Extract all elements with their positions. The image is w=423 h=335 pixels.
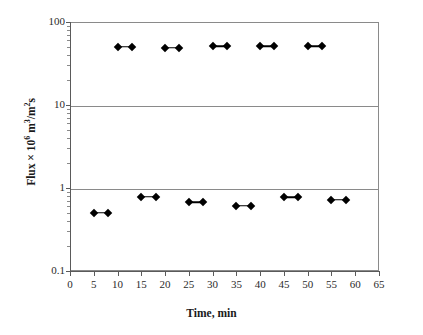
x-tick-label-60: 60	[350, 279, 361, 290]
y-minor-tick	[67, 148, 70, 149]
x-tick-60	[355, 271, 356, 276]
y-minor-tick	[67, 35, 70, 36]
x-tick-5	[94, 271, 95, 276]
y-minor-tick	[67, 163, 70, 164]
y-axis-line	[70, 22, 71, 271]
y-minor-tick	[67, 201, 70, 202]
x-tick-30	[213, 271, 214, 276]
y-minor-tick	[67, 109, 70, 110]
y-minor-tick	[67, 231, 70, 232]
x-tick-label-5: 5	[91, 279, 97, 290]
y-minor-tick	[67, 65, 70, 66]
y-tick-label-100: 100	[49, 16, 66, 27]
y-tick-100	[66, 22, 71, 23]
y-minor-tick	[67, 196, 70, 197]
plot-area	[70, 22, 379, 271]
x-tick-40	[260, 271, 261, 276]
y-minor-tick	[67, 123, 70, 124]
x-tick-label-35: 35	[231, 279, 242, 290]
y-tick-label-1: 1	[60, 182, 66, 193]
y-minor-tick	[67, 113, 70, 114]
y-minor-tick	[67, 192, 70, 193]
x-tick-label-30: 30	[207, 279, 218, 290]
y-minor-tick	[67, 213, 70, 214]
y-tick-label-10: 10	[54, 99, 65, 110]
x-tick-45	[284, 271, 285, 276]
gridline-1	[71, 189, 378, 190]
y-minor-tick	[67, 26, 70, 27]
y-minor-tick	[67, 130, 70, 131]
x-tick-label-15: 15	[136, 279, 147, 290]
y-minor-tick	[67, 138, 70, 139]
y-minor-tick	[67, 30, 70, 31]
x-tick-25	[189, 271, 190, 276]
x-tick-65	[379, 271, 380, 276]
y-minor-tick	[67, 221, 70, 222]
y-minor-tick	[67, 55, 70, 56]
y-tick-label-0.1: 0.1	[51, 265, 65, 276]
x-tick-55	[331, 271, 332, 276]
x-tick-50	[308, 271, 309, 276]
y-minor-tick	[67, 118, 70, 119]
flux-vs-time-chart: 0.1110100 05101520253035404550556065 Flu…	[0, 0, 423, 335]
x-tick-label-50: 50	[302, 279, 313, 290]
y-minor-tick	[67, 40, 70, 41]
y-axis-title: Flux × 106 m3/m2s	[23, 17, 37, 267]
x-axis-title: Time, min	[0, 307, 423, 319]
x-tick-35	[236, 271, 237, 276]
x-tick-10	[118, 271, 119, 276]
x-tick-label-40: 40	[255, 279, 266, 290]
x-axis-line	[70, 271, 379, 272]
x-tick-15	[141, 271, 142, 276]
x-tick-label-55: 55	[326, 279, 337, 290]
x-tick-label-10: 10	[112, 279, 123, 290]
x-tick-0	[70, 271, 71, 276]
y-tick-1	[66, 188, 71, 189]
y-tick-10	[66, 105, 71, 106]
x-tick-label-0: 0	[67, 279, 73, 290]
x-tick-label-45: 45	[278, 279, 289, 290]
gridline-10	[71, 106, 378, 107]
x-tick-label-25: 25	[183, 279, 194, 290]
y-minor-tick	[67, 206, 70, 207]
y-minor-tick	[67, 246, 70, 247]
x-tick-label-20: 20	[160, 279, 171, 290]
x-tick-label-65: 65	[374, 279, 385, 290]
y-minor-tick	[67, 47, 70, 48]
x-tick-20	[165, 271, 166, 276]
y-minor-tick	[67, 80, 70, 81]
